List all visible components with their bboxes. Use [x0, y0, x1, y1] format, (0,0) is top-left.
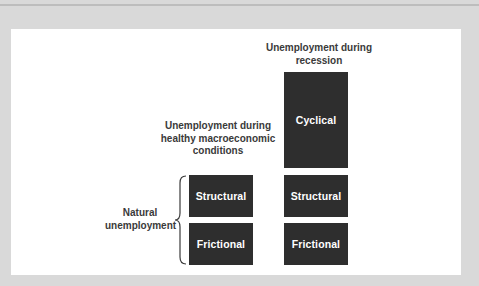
block-label: Cyclical [296, 114, 337, 126]
healthy-column-title: Unemployment during healthy macroeconomi… [153, 120, 283, 158]
title-line: conditions [153, 145, 283, 158]
block-label: Structural [196, 190, 247, 202]
label-line: unemployment [105, 220, 175, 233]
label-line: Natural [105, 207, 175, 220]
block-label: Frictional [197, 238, 245, 250]
curly-brace-icon [174, 175, 188, 265]
title-line: recession [254, 55, 384, 68]
frame-top-line [0, 4, 479, 6]
title-line: healthy macroeconomic [153, 133, 283, 146]
diagram-panel: Unemployment during recession Unemployme… [11, 29, 461, 275]
healthy-frictional-block: Frictional [189, 223, 253, 265]
title-line: Unemployment during [254, 42, 384, 55]
recession-structural-block: Structural [284, 175, 348, 217]
block-label: Frictional [292, 238, 340, 250]
title-line: Unemployment during [153, 120, 283, 133]
recession-cyclical-block: Cyclical [284, 72, 348, 168]
healthy-structural-block: Structural [189, 175, 253, 217]
natural-unemployment-label: Natural unemployment [105, 207, 175, 232]
block-label: Structural [291, 190, 342, 202]
recession-frictional-block: Frictional [284, 223, 348, 265]
recession-column-title: Unemployment during recession [254, 42, 384, 67]
